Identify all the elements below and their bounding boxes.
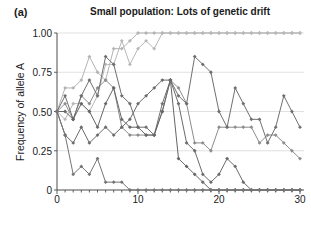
series-marker bbox=[217, 31, 221, 35]
series-marker bbox=[160, 31, 164, 35]
series-marker bbox=[185, 188, 189, 192]
series-marker bbox=[71, 102, 75, 106]
series-marker bbox=[233, 125, 237, 129]
series-marker bbox=[274, 188, 278, 192]
series-marker bbox=[225, 125, 229, 129]
series-marker bbox=[233, 188, 237, 192]
series-marker bbox=[225, 31, 229, 35]
series-marker bbox=[128, 63, 132, 67]
series-marker bbox=[274, 125, 278, 129]
series-marker bbox=[193, 141, 197, 145]
series-marker bbox=[112, 47, 116, 51]
series-marker bbox=[298, 31, 302, 35]
series-marker bbox=[185, 31, 189, 35]
series-marker bbox=[144, 31, 148, 35]
series-marker bbox=[298, 188, 302, 192]
series-marker bbox=[177, 102, 181, 106]
plot-area bbox=[0, 0, 311, 226]
series-marker bbox=[241, 31, 245, 35]
data-series bbox=[55, 78, 302, 160]
series-marker bbox=[217, 125, 221, 129]
series-marker bbox=[96, 94, 100, 98]
series-marker bbox=[266, 31, 270, 35]
series-marker bbox=[258, 188, 262, 192]
series-marker bbox=[298, 125, 302, 129]
series-marker bbox=[266, 141, 270, 145]
series-marker bbox=[96, 125, 100, 129]
series-marker bbox=[152, 31, 156, 35]
series-marker bbox=[282, 31, 286, 35]
series-marker bbox=[104, 102, 108, 106]
series-marker bbox=[209, 31, 213, 35]
series-marker bbox=[177, 188, 181, 192]
series-line bbox=[57, 57, 300, 143]
series-line bbox=[57, 33, 300, 119]
series-marker bbox=[201, 188, 205, 192]
series-marker bbox=[266, 188, 270, 192]
series-marker bbox=[63, 94, 67, 98]
series-marker bbox=[233, 86, 237, 90]
series-marker bbox=[96, 157, 100, 161]
series-marker bbox=[112, 180, 116, 184]
series-marker bbox=[233, 31, 237, 35]
series-marker bbox=[225, 188, 229, 192]
series-marker bbox=[79, 125, 83, 129]
data-series bbox=[55, 31, 302, 121]
figure-panel: (a) Small population: Lots of genetic dr… bbox=[0, 0, 311, 226]
series-marker bbox=[241, 102, 245, 106]
series-marker bbox=[250, 117, 254, 121]
series-marker bbox=[169, 188, 173, 192]
series-marker bbox=[193, 188, 197, 192]
series-marker bbox=[241, 188, 245, 192]
series-marker bbox=[193, 31, 197, 35]
series-marker bbox=[290, 110, 294, 114]
series-marker bbox=[250, 31, 254, 35]
series-marker bbox=[136, 188, 140, 192]
series-marker bbox=[136, 133, 140, 137]
series-marker bbox=[152, 188, 156, 192]
series-marker bbox=[282, 94, 286, 98]
series-marker bbox=[217, 110, 221, 114]
series-marker bbox=[217, 188, 221, 192]
series-marker bbox=[88, 78, 92, 82]
series-marker bbox=[258, 117, 262, 121]
series-marker bbox=[144, 188, 148, 192]
series-marker bbox=[282, 188, 286, 192]
series-marker bbox=[290, 31, 294, 35]
series-marker bbox=[274, 31, 278, 35]
data-series bbox=[55, 55, 302, 145]
series-marker bbox=[201, 31, 205, 35]
series-marker bbox=[160, 188, 164, 192]
series-marker bbox=[258, 31, 262, 35]
series-marker bbox=[63, 86, 67, 90]
series-marker bbox=[177, 31, 181, 35]
series-marker bbox=[88, 55, 92, 59]
series-marker bbox=[120, 39, 124, 43]
series-marker bbox=[241, 125, 245, 129]
series-marker bbox=[250, 125, 254, 129]
series-marker bbox=[104, 180, 108, 184]
series-marker bbox=[290, 188, 294, 192]
series-marker bbox=[169, 31, 173, 35]
